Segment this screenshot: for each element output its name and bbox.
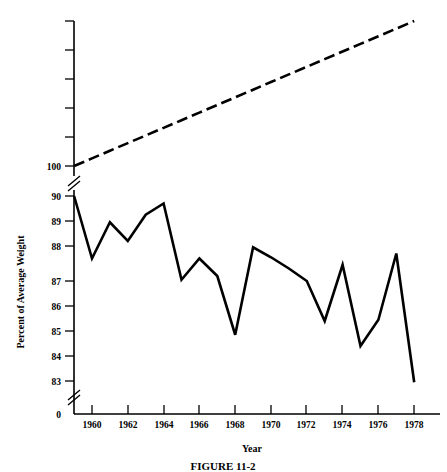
y-tick-label-84: 84 bbox=[52, 352, 62, 362]
x-tick-label-1976: 1976 bbox=[369, 420, 388, 430]
x-axis-title: Year bbox=[242, 443, 263, 454]
y-tick-label-100: 100 bbox=[47, 162, 62, 172]
chart-background bbox=[0, 0, 447, 472]
y-tick-label-90: 90 bbox=[52, 192, 62, 202]
x-tick-label-1978: 1978 bbox=[405, 420, 424, 430]
x-tick-label-1964: 1964 bbox=[155, 420, 174, 430]
y-tick-label-88: 88 bbox=[52, 242, 62, 252]
x-tick-label-1970: 1970 bbox=[262, 420, 281, 430]
figure-container: 100 90 89 88 87 86 85 bbox=[0, 0, 447, 472]
figure-caption: FIGURE 11-2 bbox=[190, 460, 256, 472]
y-tick-label-0: 0 bbox=[56, 410, 61, 420]
x-tick-label-1972: 1972 bbox=[297, 420, 316, 430]
x-tick-label-1974: 1974 bbox=[333, 420, 352, 430]
x-tick-label-1968: 1968 bbox=[226, 420, 245, 430]
y-tick-label-83: 83 bbox=[52, 377, 62, 387]
y-tick-label-89: 89 bbox=[52, 217, 62, 227]
y-tick-label-86: 86 bbox=[52, 302, 62, 312]
y-tick-label-85: 85 bbox=[52, 327, 62, 337]
x-tick-label-1966: 1966 bbox=[190, 420, 209, 430]
y-tick-label-87: 87 bbox=[52, 277, 62, 287]
line-chart: 100 90 89 88 87 86 85 bbox=[0, 0, 447, 472]
x-tick-label-1960: 1960 bbox=[83, 420, 102, 430]
x-tick-label-1962: 1962 bbox=[119, 420, 138, 430]
y-axis-title: Percent of Average Weight bbox=[15, 235, 26, 349]
